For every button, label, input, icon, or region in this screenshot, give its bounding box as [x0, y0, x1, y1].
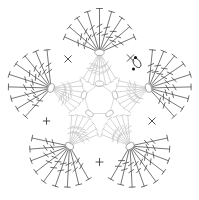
- ring-oval-top: [95, 81, 104, 86]
- start-marker-dot-1: [134, 56, 137, 59]
- fan-hub-hub-top: [95, 50, 104, 56]
- start-marker-dot-2: [132, 68, 135, 71]
- crochet-motif-diagram: [0, 0, 199, 200]
- crochet-chart-canvas: [0, 0, 199, 200]
